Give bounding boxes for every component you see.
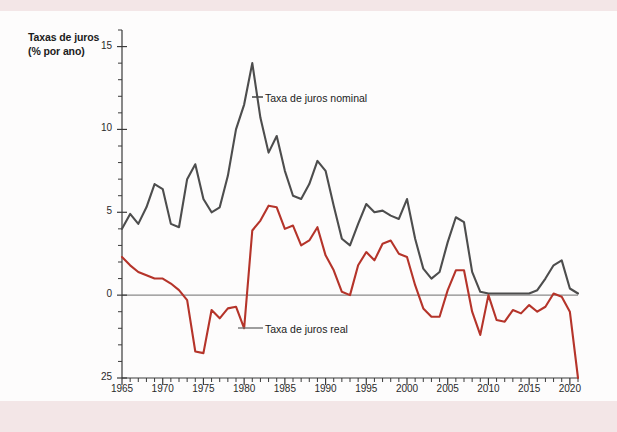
x-axis-tick-label: 1980 [224,383,264,394]
x-axis-tick-label: 1970 [143,383,183,394]
data-series-group [122,63,578,378]
x-axis-tick-label: 1985 [265,383,305,394]
x-axis-tick-label: 2010 [468,383,508,394]
x-axis-tick-label: 1965 [102,383,142,394]
x-axis-tick-label: 2000 [387,383,427,394]
x-axis-tick-label: 2015 [509,383,549,394]
legend-label-real: Taxa de juros real [265,323,348,335]
legend-label-nominal: Taxa de juros nominal [265,92,367,104]
x-axis-tick-label: 1975 [183,383,223,394]
x-axis-tick-label: 2005 [428,383,468,394]
x-axis-tick-label: 1995 [346,383,386,394]
y-axis-tick-label: 0 [86,288,112,299]
series-line-real [122,206,578,378]
y-axis-tick-label: 15 [86,40,112,51]
x-axis-tick-label: 1990 [306,383,346,394]
legend-leader-lines-group [238,97,263,328]
y-axis-tick-label: 25 [86,371,112,382]
y-axis-tick-label: 5 [86,205,112,216]
y-axis-tick-label: 10 [86,122,112,133]
x-axis-tick-label: 2020 [550,383,590,394]
page-background: Taxas de juros (% por ano) 15105025 1965… [0,0,617,432]
